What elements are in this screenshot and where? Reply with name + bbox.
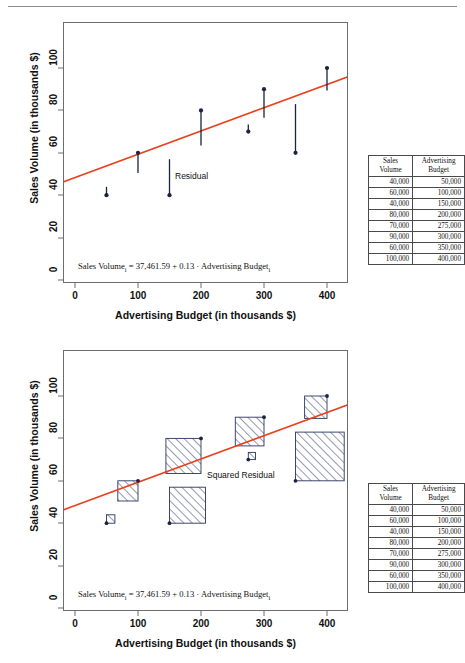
equation-lhs-bottom: Sales Volume bbox=[78, 589, 125, 599]
cell-sales-volume: 40,000 bbox=[369, 527, 413, 538]
table-row: 70,000275,000 bbox=[369, 549, 465, 560]
table-row: 60,000100,000 bbox=[369, 188, 465, 199]
table-row: 60,000350,000 bbox=[369, 571, 465, 582]
table-row: 40,000150,000 bbox=[369, 199, 465, 210]
cell-sales-volume: 80,000 bbox=[369, 210, 413, 221]
squared-residual-box bbox=[170, 487, 206, 523]
cell-sales-volume: 70,000 bbox=[369, 549, 413, 560]
regression-equation-bottom: Sales Volumei = 37,461.59 + 0.13 · Adver… bbox=[78, 589, 270, 601]
table-row: 60,000100,000 bbox=[369, 516, 465, 527]
equation-lhs-top: Sales Volume bbox=[78, 261, 125, 271]
cell-advertising-budget: 200,000 bbox=[413, 538, 465, 549]
cell-advertising-budget: 350,000 bbox=[413, 571, 465, 582]
cell-advertising-budget: 400,000 bbox=[413, 254, 465, 265]
cell-sales-volume: 40,000 bbox=[369, 505, 413, 516]
table-header-sales-volume-top: Sales Volume bbox=[369, 156, 413, 177]
squared-residual-box bbox=[166, 438, 201, 473]
cell-advertising-budget: 100,000 bbox=[413, 188, 465, 199]
table-header-row-top: Sales Volume Advertising Budget bbox=[369, 156, 465, 177]
table-header-line1-ab-top: Advertising bbox=[416, 157, 461, 166]
table-body-top: 40,00050,000 60,000100,000 40,000150,000… bbox=[369, 177, 465, 265]
cell-advertising-budget: 400,000 bbox=[413, 582, 465, 593]
cell-sales-volume: 70,000 bbox=[369, 221, 413, 232]
regression-equation-top: Sales Volumei = 37,461.59 + 0.13 · Adver… bbox=[78, 261, 270, 273]
cell-advertising-budget: 150,000 bbox=[413, 527, 465, 538]
table-header-line2-sv-bottom: Volume bbox=[372, 494, 409, 503]
table-header-row-bottom: Sales Volume Advertising Budget bbox=[369, 484, 465, 505]
figure-squared-residual-plot: 100 80 60 40 20 0 0 100 200 300 400 Sale… bbox=[0, 340, 465, 663]
regression-line-top bbox=[63, 77, 348, 182]
squared-residual-annotation: Squared Residual bbox=[207, 470, 275, 480]
cell-sales-volume: 60,000 bbox=[369, 571, 413, 582]
table-header-line2-ab-top: Budget bbox=[416, 166, 461, 175]
residual-segments-top bbox=[107, 68, 328, 195]
table-row: 90,000300,000 bbox=[369, 232, 465, 243]
cell-sales-volume: 40,000 bbox=[369, 177, 413, 188]
equation-mid-bottom: = 37,461.59 + 0.13 · Advertising Budget bbox=[127, 589, 269, 599]
cell-sales-volume: 60,000 bbox=[369, 188, 413, 199]
table-row: 40,00050,000 bbox=[369, 505, 465, 516]
cell-advertising-budget: 300,000 bbox=[413, 232, 465, 243]
table-row: 100,000400,000 bbox=[369, 582, 465, 593]
table-row: 100,000400,000 bbox=[369, 254, 465, 265]
table-header-advertising-budget-bottom: Advertising Budget bbox=[413, 484, 465, 505]
table-row: 60,000350,000 bbox=[369, 243, 465, 254]
cell-sales-volume: 90,000 bbox=[369, 560, 413, 571]
cell-sales-volume: 90,000 bbox=[369, 232, 413, 243]
table-row: 40,000150,000 bbox=[369, 527, 465, 538]
cell-advertising-budget: 100,000 bbox=[413, 516, 465, 527]
table-row: 40,00050,000 bbox=[369, 177, 465, 188]
cell-sales-volume: 60,000 bbox=[369, 243, 413, 254]
cell-advertising-budget: 150,000 bbox=[413, 199, 465, 210]
cell-advertising-budget: 300,000 bbox=[413, 560, 465, 571]
table-row: 90,000300,000 bbox=[369, 560, 465, 571]
squared-residual-box bbox=[305, 396, 327, 418]
table-header-line1-sv-top: Sales bbox=[372, 157, 409, 166]
squared-residual-box bbox=[296, 432, 345, 481]
table-row: 70,000275,000 bbox=[369, 221, 465, 232]
cell-advertising-budget: 50,000 bbox=[413, 177, 465, 188]
table-header-line1-sv-bottom: Sales bbox=[372, 485, 409, 494]
header-divider bbox=[8, 6, 457, 7]
table-header-line2-sv-top: Volume bbox=[372, 166, 409, 175]
cell-advertising-budget: 200,000 bbox=[413, 210, 465, 221]
table-header-sales-volume-bottom: Sales Volume bbox=[369, 484, 413, 505]
cell-advertising-budget: 50,000 bbox=[413, 505, 465, 516]
residual-annotation: Residual bbox=[175, 171, 208, 181]
cell-sales-volume: 100,000 bbox=[369, 254, 413, 265]
equation-sub2-top: i bbox=[268, 266, 270, 273]
cell-advertising-budget: 275,000 bbox=[413, 221, 465, 232]
table-header-line2-ab-bottom: Budget bbox=[416, 494, 461, 503]
table-header-line1-ab-bottom: Advertising bbox=[416, 485, 461, 494]
table-header-advertising-budget-top: Advertising Budget bbox=[413, 156, 465, 177]
table-row: 80,000200,000 bbox=[369, 210, 465, 221]
table-row: 80,000200,000 bbox=[369, 538, 465, 549]
equation-sub2-bottom: i bbox=[268, 594, 270, 601]
figure-residual-plot: 100 80 60 40 20 0 0 100 200 300 400 Sale… bbox=[0, 12, 465, 335]
table-body-bottom: 40,00050,000 60,000100,000 40,000150,000… bbox=[369, 505, 465, 593]
data-table-bottom: Sales Volume Advertising Budget 40,00050… bbox=[368, 483, 465, 593]
cell-sales-volume: 60,000 bbox=[369, 516, 413, 527]
cell-sales-volume: 80,000 bbox=[369, 538, 413, 549]
equation-mid-top: = 37,461.59 + 0.13 · Advertising Budget bbox=[127, 261, 269, 271]
data-table-top: Sales Volume Advertising Budget 40,00050… bbox=[368, 155, 465, 265]
cell-advertising-budget: 275,000 bbox=[413, 549, 465, 560]
cell-sales-volume: 100,000 bbox=[369, 582, 413, 593]
squared-residual-boxes bbox=[107, 396, 345, 523]
cell-advertising-budget: 350,000 bbox=[413, 243, 465, 254]
cell-sales-volume: 40,000 bbox=[369, 199, 413, 210]
